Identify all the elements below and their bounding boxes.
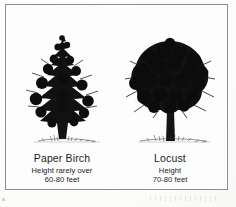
scan-artifact-speckle — [150, 196, 220, 201]
tree-height-note: Height rarely over 60-80 feet — [8, 166, 116, 185]
scan-artifact-tick — [2, 198, 5, 201]
tree-name-label: Paper Birch — [8, 152, 116, 164]
tree-height-note-line1: Height rarely over — [8, 166, 116, 175]
tree-height-note-line2: 60-80 feet — [8, 175, 116, 184]
tree-height-note-line1: Height — [116, 166, 224, 175]
tree-panel-paper-birch: Paper Birch Height rarely over 60-80 fee… — [8, 11, 116, 189]
figure-frame: Paper Birch Height rarely over 60-80 fee… — [5, 4, 228, 190]
locust-illustration — [116, 11, 224, 151]
tree-name-label: Locust — [116, 152, 224, 164]
paper-birch-illustration — [8, 11, 116, 151]
tree-height-note-line2: 70-80 feet — [116, 175, 224, 184]
birch-ground-line — [34, 135, 100, 142]
tree-panel-locust: Locust Height 70-80 feet — [116, 11, 224, 189]
figure-page: Paper Birch Height rarely over 60-80 fee… — [0, 0, 236, 207]
tree-height-note: Height 70-80 feet — [116, 166, 224, 185]
